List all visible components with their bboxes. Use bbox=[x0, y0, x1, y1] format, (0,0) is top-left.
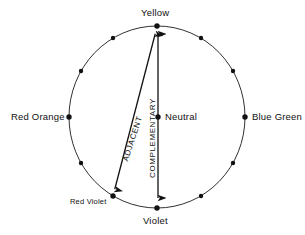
hue-point bbox=[199, 36, 203, 40]
hue-point bbox=[199, 194, 203, 198]
hue-point bbox=[79, 69, 83, 73]
hue-point bbox=[231, 69, 235, 73]
label-blue-green: Blue Green bbox=[252, 112, 302, 122]
hue-point bbox=[231, 161, 235, 165]
hue-point-blue-green bbox=[242, 114, 247, 119]
label-yellow: Yellow bbox=[141, 8, 169, 18]
hue-point-violet bbox=[154, 205, 159, 210]
hue-point bbox=[79, 161, 83, 165]
hue-point bbox=[111, 36, 115, 40]
color-wheel-diagram: Yellow Blue Green Violet Red Orange Neut… bbox=[0, 0, 305, 235]
label-red-violet: Red Violet bbox=[70, 198, 106, 206]
label-complementary: COMPLEMENTARY bbox=[149, 98, 157, 178]
label-neutral: Neutral bbox=[165, 112, 197, 122]
hue-point-red-orange bbox=[66, 114, 71, 119]
hue-point-red-violet bbox=[110, 193, 115, 198]
hue-point-yellow bbox=[154, 23, 159, 28]
label-violet: Violet bbox=[143, 216, 168, 226]
label-red-orange: Red Orange bbox=[11, 112, 65, 122]
